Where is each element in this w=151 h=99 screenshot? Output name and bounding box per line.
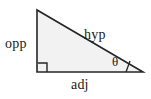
side-label-adjacent: adj [71, 78, 89, 92]
angle-label-theta: θ [112, 55, 118, 68]
trigonometry-triangle-figure: opp hyp adj θ [0, 0, 151, 99]
side-label-opposite: opp [5, 37, 27, 51]
side-label-hypotenuse: hyp [84, 28, 106, 42]
